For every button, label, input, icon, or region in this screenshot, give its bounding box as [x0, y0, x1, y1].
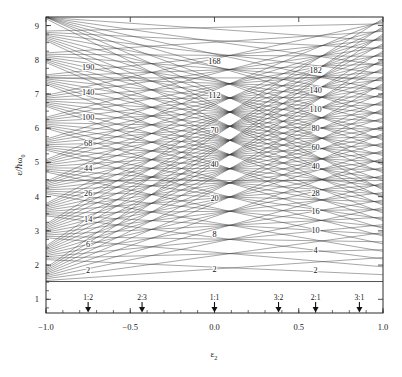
ratio-marker-group: 1:22:31:13:22:13:1	[83, 293, 364, 313]
level-line	[46, 28, 383, 181]
magic-number-label: 16	[312, 207, 320, 216]
y-axis-label-hbar-omega: ℏω	[14, 157, 24, 169]
ratio-marker-label: 2:1	[311, 293, 321, 302]
level-line	[46, 137, 383, 145]
x-axis-label: ε2	[211, 349, 218, 361]
ratio-marker-arrow-head	[356, 307, 362, 313]
magic-number-label: 40	[312, 162, 320, 171]
magic-number-label: 80	[312, 124, 320, 133]
level-line	[46, 34, 383, 74]
x-tick-label: 0.5	[293, 322, 304, 332]
x-axis-label-sub: 2	[214, 354, 217, 361]
magic-number-label: 14	[84, 215, 92, 224]
magic-number-label: 44	[84, 164, 92, 173]
ratio-marker-arrow-head	[212, 307, 218, 313]
ratio-marker-label: 3:1	[355, 293, 365, 302]
magic-number-label: 2	[212, 265, 216, 274]
level-line	[46, 103, 383, 186]
level-line	[46, 24, 383, 31]
magic-number-label: 6	[86, 240, 90, 249]
magic-number-label: 100	[82, 113, 94, 122]
magic-number-label: 110	[310, 105, 322, 114]
level-line	[46, 158, 383, 274]
magic-number-label: 28	[312, 189, 320, 198]
level-line	[46, 17, 383, 140]
ratio-marker-label: 2:3	[137, 293, 147, 302]
y-tick-label: 4	[35, 192, 40, 202]
x-tick-label: 0.0	[209, 322, 220, 332]
y-tick-label: 9	[35, 21, 39, 31]
level-line	[46, 250, 383, 259]
magic-number-labels-group: 2614264468100140190282040701121682410162…	[82, 57, 322, 275]
y-tick-label: 8	[35, 55, 39, 65]
ratio-marker-label: 3:2	[274, 293, 284, 302]
magic-number-label: 168	[208, 57, 220, 66]
magic-number-label: 26	[84, 189, 92, 198]
y-tick-label: 2	[35, 260, 39, 270]
magic-number-label: 8	[212, 230, 216, 239]
magic-number-label: 190	[82, 63, 94, 72]
ratio-marker-arrow-head	[85, 307, 91, 313]
ratio-marker-label: 1:2	[83, 293, 93, 302]
level-line	[46, 104, 383, 121]
level-line	[46, 152, 383, 188]
ratio-marker-arrow-head	[139, 307, 145, 313]
magic-number-label: 10	[312, 226, 320, 235]
plot-canvas: −1.0−0.50.00.51.0123456789 2614264468100…	[0, 0, 402, 377]
magic-number-label: 112	[209, 91, 221, 100]
magic-number-label: 2	[314, 266, 318, 275]
level-line	[46, 78, 383, 89]
magic-number-label: 68	[84, 139, 92, 148]
x-tick-label: −0.5	[123, 322, 138, 332]
x-tick-label: 1.0	[378, 322, 389, 332]
magic-number-label: 140	[82, 88, 94, 97]
y-tick-label: 5	[35, 157, 39, 167]
nilsson-diagram-figure: −1.0−0.50.00.51.0123456789 2614264468100…	[0, 0, 402, 377]
magic-number-label: 70	[210, 126, 218, 135]
ratio-marker-arrow-head	[276, 307, 282, 313]
y-axis-label: ε/ℏω0	[14, 154, 26, 175]
x-tick-label: −1.0	[38, 322, 53, 332]
magic-number-label: 20	[210, 194, 218, 203]
level-line	[46, 54, 383, 56]
y-tick-label: 7	[35, 89, 39, 99]
magic-number-label: 60	[312, 143, 320, 152]
magic-number-label: 182	[309, 66, 321, 75]
ratio-marker-arrow-head	[313, 307, 319, 313]
y-tick-label: 1	[35, 294, 39, 304]
level-line	[46, 38, 383, 140]
magic-number-label: 4	[314, 246, 318, 255]
y-tick-label: 6	[35, 123, 39, 133]
y-axis-label-sub: 0	[19, 154, 26, 157]
ratio-marker-label: 1:1	[210, 293, 220, 302]
magic-number-label: 40	[210, 160, 218, 169]
magic-number-label: 2	[86, 266, 90, 275]
magic-number-label: 140	[309, 86, 321, 95]
y-tick-label: 3	[35, 226, 39, 236]
